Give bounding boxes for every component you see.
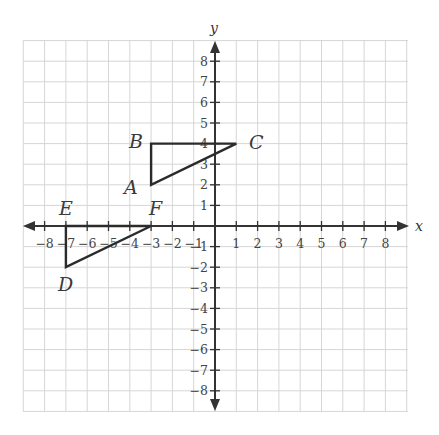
x-tick-label: 3 [275, 236, 283, 251]
x-tick-label: 2 [254, 236, 262, 251]
y-tick-label: −7 [190, 363, 208, 378]
vertex-label-e: E [58, 197, 73, 219]
y-tick-label: −4 [190, 301, 208, 316]
coordinate-plane: x y −8−7−6−5−4−3−2−11234567887654321−1−2… [0, 0, 439, 435]
y-axis-down-arrow-icon [210, 399, 220, 411]
y-tick-label: 2 [200, 177, 208, 192]
vertex-label-b: B [128, 130, 143, 152]
y-tick-label: 7 [200, 74, 208, 89]
vertex-labels: A B C D E F [57, 130, 264, 295]
y-axis-up-arrow-icon [210, 41, 220, 53]
x-tick-label: 5 [318, 236, 326, 251]
x-tick-label: −2 [163, 236, 181, 251]
y-tick-label: −8 [190, 383, 208, 398]
x-axis-left-arrow-icon [23, 221, 35, 231]
y-tick-label: 5 [200, 116, 208, 131]
y-tick-label: −3 [190, 280, 208, 295]
y-tick-label: −2 [190, 260, 208, 275]
y-tick-label: −6 [190, 342, 208, 357]
y-axis-label: y [209, 20, 219, 36]
vertex-label-d: D [57, 273, 73, 295]
axes: x y [23, 20, 423, 411]
vertex-label-c: C [249, 131, 264, 153]
x-tick-label: 6 [339, 236, 347, 251]
x-tick-label: 4 [296, 236, 304, 251]
x-tick-label: 8 [381, 236, 389, 251]
x-tick-label: 7 [360, 236, 368, 251]
x-tick-label: −6 [78, 236, 96, 251]
x-tick-label: −8 [35, 236, 53, 251]
x-tick-label: 1 [232, 236, 240, 251]
y-tick-label: −5 [190, 322, 208, 337]
vertex-label-a: A [122, 176, 138, 198]
y-tick-label: 8 [200, 54, 208, 69]
y-tick-label: 1 [200, 198, 208, 213]
y-tick-label: −1 [190, 239, 208, 254]
x-axis-label: x [415, 218, 423, 234]
vertex-label-f: F [148, 197, 163, 219]
y-tick-label: 6 [200, 95, 208, 110]
x-tick-label: −3 [142, 236, 160, 251]
